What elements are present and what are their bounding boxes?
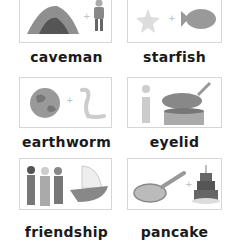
plus-sign: + — [168, 13, 176, 23]
star-icon — [134, 7, 162, 35]
lid-icon — [158, 81, 218, 125]
pan-icon — [132, 169, 186, 205]
word-label: earthworm — [19, 134, 114, 150]
word-label: caveman — [19, 49, 114, 65]
picture-box — [19, 158, 112, 210]
fish-icon — [179, 7, 217, 33]
word-label: pancake — [127, 224, 222, 240]
word-label: eyelid — [127, 134, 222, 150]
earth-icon — [28, 86, 62, 120]
picture-box: + — [127, 158, 222, 210]
cake-icon — [191, 163, 221, 207]
picture-box — [127, 77, 222, 128]
man-icon — [90, 0, 108, 33]
plus-sign: + — [66, 95, 74, 105]
picture-box: + — [19, 77, 112, 128]
ship-icon — [68, 162, 110, 206]
friends-icon — [23, 162, 69, 208]
word-label: friendship — [19, 224, 114, 240]
worm-icon — [76, 86, 106, 122]
picture-box: + — [127, 0, 222, 43]
cave-icon — [23, 2, 83, 38]
picture-box: + — [19, 0, 112, 43]
word-label: starfish — [127, 49, 222, 65]
letter-i-icon — [140, 84, 152, 124]
